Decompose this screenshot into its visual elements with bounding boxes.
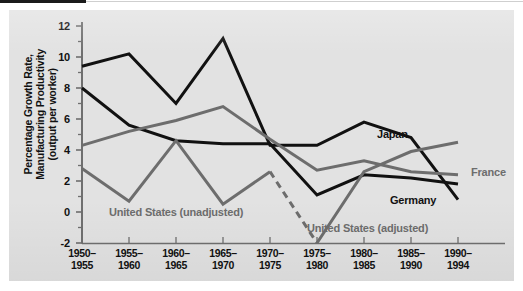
series-line-germany	[82, 88, 458, 195]
y-axis-title: Percentage Growth Rate, Manufacturing Pr…	[22, 26, 59, 202]
series-label-france: France	[471, 166, 506, 178]
xtick-label-1950-1955: 1950– 1955	[58, 248, 106, 271]
series-label-germany: Germany	[390, 194, 436, 206]
xtick-label-1985-1990: 1985– 1990	[387, 248, 435, 271]
ytick-label-0: 0	[42, 206, 70, 218]
series-line-france	[82, 107, 458, 175]
xtick-label-1990-1994: 1990– 1994	[434, 248, 482, 271]
series-label-japan: Japan	[377, 128, 408, 140]
xtick-label-1955-1960: 1955– 1960	[105, 248, 153, 271]
xtick-label-1960-1965: 1960– 1965	[152, 248, 200, 271]
series-label-united-states-adjusted: United States (adjusted)	[307, 222, 428, 234]
xtick-label-1965-1970: 1965– 1970	[199, 248, 247, 271]
xtick-label-1970-1975: 1970– 1975	[246, 248, 294, 271]
series-label-united-states-unadjusted: United States (unadjusted)	[109, 206, 243, 218]
series-line-united-states-unadjusted	[82, 141, 270, 205]
chart-figure: 12 10 8 6 4 2 0 -2 Percentage Growth Rat…	[0, 0, 523, 291]
series-line-japan	[82, 38, 458, 199]
xtick-label-1980-1985: 1980– 1985	[340, 248, 388, 271]
xtick-label-1975-1980: 1975– 1980	[293, 248, 341, 271]
